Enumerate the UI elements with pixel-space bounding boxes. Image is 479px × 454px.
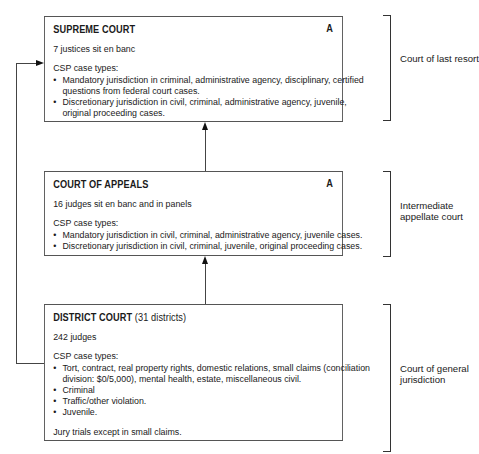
district-court-box: DISTRICT COURT (31 districts) 242 judges… [44, 304, 343, 441]
court-of-appeals-bracket [383, 171, 391, 257]
court-of-appeals-box: A COURT OF APPEALS 16 judges sit en banc… [44, 171, 343, 256]
list-item: Criminal [53, 384, 377, 395]
list-item: Mandatory jurisdiction in civil, crimina… [53, 229, 377, 240]
court-of-appeals-tier-label: Intermediate appellate court [400, 200, 470, 222]
supreme-court-tier-label: Court of last resort [400, 53, 479, 64]
district-court-desc: 242 judges [53, 331, 377, 342]
district-court-note: Jury trials except in small claims. [53, 426, 377, 437]
district-court-subtitle: (31 districts) [135, 312, 186, 323]
list-item: Traffic/other violation. [53, 395, 377, 406]
district-court-case-list: Tort, contract, real property rights, do… [53, 362, 377, 418]
supreme-court-desc: 7 justices sit en banc [53, 43, 377, 54]
connector-district-to-supreme-horizontal-bottom [16, 363, 44, 364]
district-court-tier-label: Court of general jurisdiction [400, 363, 475, 385]
court-of-appeals-csp-label: CSP case types: [53, 217, 377, 228]
arrow-right-icon [36, 60, 44, 66]
district-court-bracket [383, 304, 391, 452]
list-item: Discretionary jurisdiction in civil, cri… [53, 96, 377, 118]
list-item: Discretionary jurisdiction in civil, cri… [53, 240, 377, 251]
supreme-court-box: A SUPREME COURT 7 justices sit en banc C… [44, 16, 343, 122]
district-court-name: DISTRICT COURT [53, 312, 132, 323]
court-of-appeals-desc: 16 judges sit en banc and in panels [53, 198, 377, 209]
connector-district-to-supreme-horizontal-top [16, 63, 37, 64]
list-item: Juvenile. [53, 406, 377, 417]
district-court-title: DISTRICT COURT (31 districts) [53, 312, 377, 323]
district-court-csp-label: CSP case types: [53, 350, 377, 361]
supreme-court-badge: A [326, 23, 333, 34]
supreme-court-bracket [383, 15, 391, 121]
supreme-court-csp-label: CSP case types: [53, 62, 377, 73]
court-of-appeals-case-list: Mandatory jurisdiction in civil, crimina… [53, 229, 377, 251]
list-item: Mandatory jurisdiction in criminal, admi… [53, 74, 377, 96]
connector-district-to-appeals [205, 263, 206, 304]
connector-appeals-to-supreme [205, 128, 206, 171]
connector-district-to-supreme-vertical [16, 63, 17, 364]
arrow-up-icon [202, 256, 208, 264]
list-item: Tort, contract, real property rights, do… [53, 362, 377, 384]
supreme-court-case-list: Mandatory jurisdiction in criminal, admi… [53, 74, 377, 119]
arrow-up-icon [202, 122, 208, 130]
court-of-appeals-badge: A [326, 178, 333, 189]
